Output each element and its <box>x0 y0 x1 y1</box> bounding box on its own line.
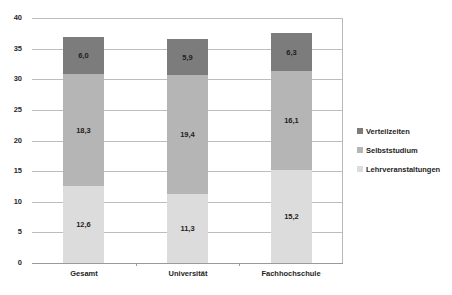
bar-segment-verteilzeiten: 5,9 <box>167 39 208 75</box>
y-tick-label: 10 <box>0 197 22 207</box>
y-tick-label: 30 <box>0 74 22 84</box>
bar-segment-verteilzeiten: 6,0 <box>63 37 104 74</box>
bar-segment-selbststudium: 18,3 <box>63 74 104 186</box>
legend-item: Lehrveranstaltungen <box>357 160 440 178</box>
bar-segment-lehrveranstaltungen: 11,3 <box>167 194 208 263</box>
gridline <box>32 18 343 19</box>
x-tick-label: Universität <box>136 269 240 278</box>
x-tick-mark <box>136 263 137 266</box>
y-tick-label: 20 <box>0 136 22 146</box>
y-tick-label: 0 <box>0 258 22 268</box>
legend-label: Lehrveranstaltungen <box>366 165 440 174</box>
y-tick-label: 35 <box>0 44 22 54</box>
data-label: 5,9 <box>182 53 192 62</box>
bar-segment-verteilzeiten: 6,3 <box>271 33 312 71</box>
bar-segment-selbststudium: 19,4 <box>167 75 208 194</box>
legend-label: Selbststudium <box>366 146 418 155</box>
y-tick-label: 15 <box>0 166 22 176</box>
data-label: 16,1 <box>284 116 299 125</box>
x-tick-label: Fachhochschule <box>239 269 343 278</box>
stacked-bar-chart: 0510152025303540 12,618,36,011,319,45,91… <box>0 0 452 295</box>
legend-item: Verteilzeiten <box>357 122 440 140</box>
bar-segment-lehrveranstaltungen: 12,6 <box>63 186 104 263</box>
legend-swatch-icon <box>357 166 363 172</box>
data-label: 6,0 <box>78 51 88 60</box>
legend-item: Selbststudium <box>357 141 440 159</box>
data-label: 19,4 <box>180 130 195 139</box>
bar-segment-lehrveranstaltungen: 15,2 <box>271 170 312 263</box>
x-tick-mark <box>239 263 240 266</box>
data-label: 12,6 <box>76 220 91 229</box>
y-tick-label: 25 <box>0 105 22 115</box>
data-label: 11,3 <box>180 224 194 233</box>
legend: VerteilzeitenSelbststudiumLehrveranstalt… <box>357 122 440 179</box>
data-label: 18,3 <box>76 126 91 135</box>
legend-label: Verteilzeiten <box>366 127 410 136</box>
data-label: 15,2 <box>284 212 299 221</box>
bar-segment-selbststudium: 16,1 <box>271 71 312 170</box>
y-tick-label: 5 <box>0 227 22 237</box>
legend-swatch-icon <box>357 147 363 153</box>
legend-swatch-icon <box>357 128 363 134</box>
x-tick-label: Gesamt <box>32 269 136 278</box>
data-label: 6,3 <box>286 48 296 57</box>
x-axis-line <box>32 263 343 264</box>
y-tick-label: 40 <box>0 13 22 23</box>
